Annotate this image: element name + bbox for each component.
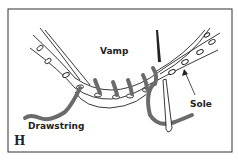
moccasin-stitching-diagram (0, 0, 238, 162)
awl-icon (156, 30, 172, 132)
leather-strips (30, 28, 220, 108)
stitches (95, 68, 156, 95)
drawstring (25, 88, 80, 119)
illustration-canvas: Vamp Sole Drawstring H (0, 0, 238, 162)
sole-arrow (182, 69, 195, 95)
label-drawstring: Drawstring (28, 122, 84, 131)
label-vamp: Vamp (100, 47, 128, 56)
lace-holes (36, 32, 216, 99)
panel-letter: H (14, 135, 25, 147)
label-sole: Sole (190, 100, 212, 109)
